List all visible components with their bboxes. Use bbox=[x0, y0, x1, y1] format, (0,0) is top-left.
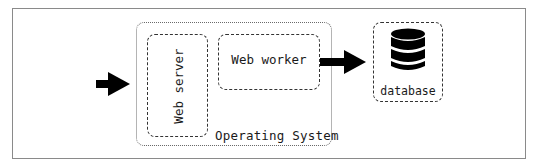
operating-system-label: Operating System bbox=[215, 128, 339, 143]
database-icon bbox=[390, 28, 426, 72]
web-server-label: Web server bbox=[171, 48, 186, 123]
database-label: database bbox=[380, 84, 435, 98]
web-worker-label: Web worker bbox=[231, 52, 306, 67]
input-arrow-icon bbox=[96, 72, 132, 96]
output-arrow-icon bbox=[320, 50, 366, 74]
